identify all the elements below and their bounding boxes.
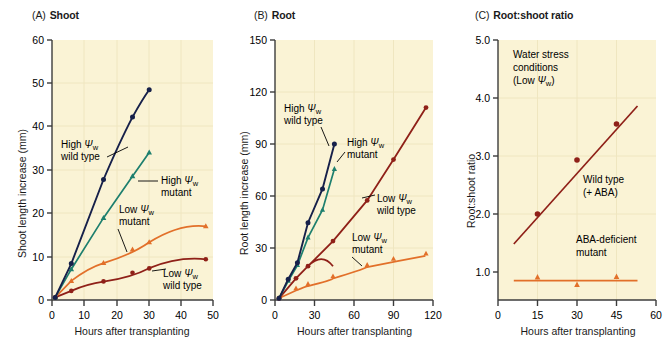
svg-text:30: 30 bbox=[571, 309, 583, 321]
svg-text:wild type: wild type bbox=[376, 205, 416, 216]
panel-c-yticklabels: 1.0 2.0 3.0 4.0 5.0 bbox=[475, 34, 490, 278]
svg-text:30: 30 bbox=[32, 164, 44, 176]
svg-text:120: 120 bbox=[249, 86, 267, 98]
svg-text:15: 15 bbox=[532, 309, 544, 321]
svg-text:60: 60 bbox=[32, 34, 44, 46]
svg-text:90: 90 bbox=[388, 309, 400, 321]
svg-text:ABA-deficient: ABA-deficient bbox=[576, 234, 637, 245]
svg-text:Water stress: Water stress bbox=[513, 49, 569, 60]
svg-text:0: 0 bbox=[495, 309, 501, 321]
panel-b-yticklabels: 0 30 60 90 120 150 bbox=[249, 34, 267, 306]
svg-text:mutant: mutant bbox=[161, 187, 192, 198]
svg-text:0: 0 bbox=[38, 294, 44, 306]
svg-text:mutant: mutant bbox=[119, 216, 150, 227]
svg-text:wild type: wild type bbox=[283, 115, 323, 126]
svg-text:(+ ABA): (+ ABA) bbox=[583, 187, 618, 198]
svg-text:30: 30 bbox=[309, 309, 321, 321]
svg-text:40: 40 bbox=[175, 309, 187, 321]
svg-text:60: 60 bbox=[348, 309, 360, 321]
panel-c-plot: 1.0 2.0 3.0 4.0 5.0 0 15 30 45 60 bbox=[443, 0, 669, 346]
panel-b-xticklabels: 0 30 60 90 120 bbox=[272, 309, 442, 321]
svg-text:150: 150 bbox=[249, 34, 267, 46]
svg-text:30: 30 bbox=[255, 242, 267, 254]
svg-text:60: 60 bbox=[255, 190, 267, 202]
svg-text:mutant: mutant bbox=[347, 149, 378, 160]
panel-shoot: (A)Shoot Shoot length increase (mm) Hour… bbox=[0, 0, 228, 346]
svg-text:1.0: 1.0 bbox=[475, 266, 490, 278]
panel-a-yticklabels: 0 10 20 30 40 50 60 bbox=[32, 34, 44, 306]
svg-text:mutant: mutant bbox=[576, 247, 607, 258]
svg-text:0: 0 bbox=[49, 309, 55, 321]
svg-text:30: 30 bbox=[143, 309, 155, 321]
panel-b-plot: 0 30 60 90 120 150 0 30 60 90 120 bbox=[222, 0, 447, 346]
svg-text:90: 90 bbox=[255, 138, 267, 150]
svg-text:10: 10 bbox=[78, 309, 90, 321]
svg-text:50: 50 bbox=[32, 77, 44, 89]
svg-text:20: 20 bbox=[111, 309, 123, 321]
svg-text:120: 120 bbox=[424, 309, 442, 321]
panel-root: (B)Root Root length increase (mm) Hours … bbox=[222, 0, 447, 346]
svg-text:20: 20 bbox=[32, 207, 44, 219]
svg-text:45: 45 bbox=[611, 309, 623, 321]
panel-root-shoot-ratio: (C)Root:shoot ratio Root:shoot ratio Hou… bbox=[443, 0, 669, 346]
svg-text:Wild type: Wild type bbox=[583, 174, 625, 185]
svg-text:10: 10 bbox=[32, 251, 44, 263]
svg-text:0: 0 bbox=[261, 294, 267, 306]
svg-text:4.0: 4.0 bbox=[475, 92, 490, 104]
svg-text:wild type: wild type bbox=[60, 151, 100, 162]
figure-root: (A)Shoot Shoot length increase (mm) Hour… bbox=[0, 0, 669, 346]
svg-text:50: 50 bbox=[207, 309, 219, 321]
svg-text:2.0: 2.0 bbox=[475, 208, 490, 220]
svg-text:0: 0 bbox=[272, 309, 278, 321]
svg-text:5.0: 5.0 bbox=[475, 34, 490, 46]
svg-text:wild type: wild type bbox=[162, 280, 202, 291]
svg-text:60: 60 bbox=[650, 309, 662, 321]
svg-text:conditions: conditions bbox=[513, 62, 558, 73]
panel-a-plot: 0 10 20 30 40 50 60 0 10 20 30 40 50 bbox=[0, 0, 228, 346]
svg-text:40: 40 bbox=[32, 120, 44, 132]
svg-text:mutant: mutant bbox=[352, 244, 383, 255]
panel-a-xticklabels: 0 10 20 30 40 50 bbox=[49, 309, 219, 321]
panel-c-xticklabels: 0 15 30 45 60 bbox=[495, 309, 662, 321]
svg-text:3.0: 3.0 bbox=[475, 150, 490, 162]
